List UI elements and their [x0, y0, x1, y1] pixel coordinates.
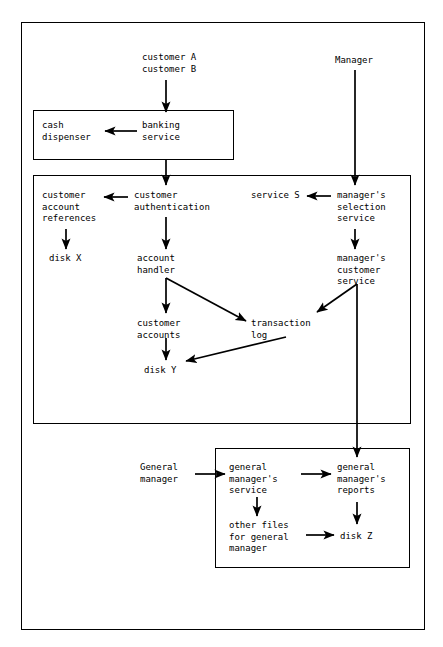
node-manager: Manager: [335, 55, 373, 67]
node-managers-customer-service: manager's customer service: [337, 253, 386, 288]
edge-managers-cust-to-transaction-log: [317, 284, 357, 312]
node-customer-authentication: customer authentication: [134, 190, 210, 213]
node-disk-z: disk Z: [340, 531, 373, 543]
node-other-files-for-general-manager: other files for general manager: [229, 520, 289, 555]
node-general-managers-reports: general manager's reports: [337, 462, 386, 497]
node-cash-dispenser: cash dispenser: [42, 120, 91, 143]
node-service-s: service S: [251, 190, 300, 202]
node-managers-selection-service: manager's selection service: [337, 190, 386, 225]
node-transaction-log: transaction log: [251, 318, 311, 341]
node-general-manager-actor: General manager: [140, 462, 178, 485]
node-customer-account-references: customer account references: [42, 190, 96, 225]
node-customer-a-b: customer A customer B: [142, 52, 196, 75]
node-disk-y: disk Y: [144, 365, 177, 377]
diagram-vector-layer: [0, 0, 443, 647]
node-customer-accounts: customer accounts: [137, 318, 180, 341]
node-account-handler: account handler: [137, 253, 175, 276]
data-flow-diagram: customer A customer B Manager cash dispe…: [0, 0, 443, 647]
node-banking-service: banking service: [142, 120, 180, 143]
node-disk-x: disk X: [49, 253, 82, 265]
edge-account-handler-to-transaction-log: [166, 278, 246, 321]
node-general-managers-service: general manager's service: [229, 462, 278, 497]
